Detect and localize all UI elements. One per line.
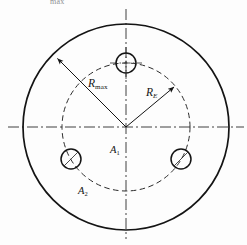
caption-fragment-text: max [50, 0, 64, 6]
r-max-dimension [58, 59, 127, 128]
disk-schematic-drawing [0, 0, 247, 245]
hole-top-group [110, 47, 142, 79]
figure-container: max Rmax RE A1 A2 [0, 0, 247, 245]
r-max-label: Rmax [88, 78, 108, 90]
r-max-label-subscript: max [95, 83, 108, 91]
r-e-label-subscript: E [153, 92, 157, 100]
area-a2-label-subscript: 2 [84, 190, 87, 197]
r-max-label-base: R [88, 77, 95, 89]
hole-bottom-right-marker [174, 152, 188, 166]
area-a2-label: A2 [78, 186, 88, 197]
hole-bottom-right-group [171, 149, 191, 169]
r-e-label: RE [146, 87, 157, 99]
area-a1-label-subscript: 1 [116, 149, 119, 156]
hole-top [116, 53, 136, 73]
area-a1-label: A1 [110, 145, 120, 156]
r-e-label-base: R [146, 86, 153, 98]
centerlines-group [8, 9, 244, 239]
hole-bottom-left-marker [64, 152, 78, 166]
hole-bottom-left-group [61, 149, 81, 169]
r-max-leader-line [58, 59, 127, 128]
